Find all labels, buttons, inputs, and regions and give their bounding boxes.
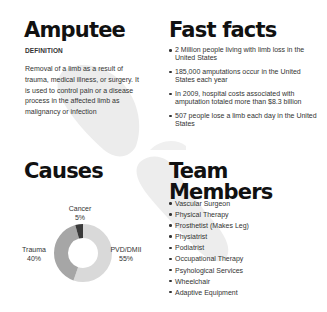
definition-label: DEFINITION [25, 47, 63, 54]
pvd-name: PVD/DMII [104, 246, 148, 255]
team-member-item: Prosthetist (Makes Leg) [169, 220, 319, 231]
chart-label-pvd: PVD/DMII 55% [104, 246, 148, 263]
team-members-title: Team Members [169, 161, 327, 203]
fact-item: 2 Million people living with limb loss i… [169, 46, 319, 62]
team-member-item: Psyhological Services [169, 265, 319, 276]
team-member-item: Adaptive Equipment [169, 287, 319, 298]
fact-item: 185,000 amputations occur in the United … [169, 68, 319, 84]
team-members-list: Vascular Surgeon Physical Therapy Prosth… [169, 198, 319, 298]
team-member-item: Vascular Surgeon [169, 198, 319, 209]
fast-facts-title: Fast facts [169, 20, 276, 41]
chart-label-cancer: Cancer 5% [62, 205, 98, 222]
background-shape-top-right [150, 141, 186, 150]
fact-item: In 2009, hospital costs associated with … [169, 90, 319, 106]
chart-label-trauma: Trauma 40% [16, 246, 52, 263]
team-member-item: Physiatrist [169, 231, 319, 242]
trauma-percent: 40% [16, 255, 52, 264]
team-member-item: Physical Therapy [169, 209, 319, 220]
trauma-name: Trauma [16, 246, 52, 255]
cancer-percent: 5% [62, 214, 98, 223]
definition-title: Amputee [24, 20, 125, 41]
fast-facts-list: 2 Million people living with limb loss i… [169, 46, 319, 134]
pvd-percent: 55% [104, 255, 148, 264]
team-member-item: Occupational Therapy [169, 253, 319, 264]
definition-text: Removal of a limb as a result of trauma,… [25, 64, 145, 118]
team-member-item: Wheelchair [169, 276, 319, 287]
team-member-item: Podiatrist [169, 242, 319, 253]
causes-title: Causes [24, 161, 103, 182]
cancer-name: Cancer [62, 205, 98, 214]
fact-item: 507 people lose a limb each day in the U… [169, 112, 319, 128]
